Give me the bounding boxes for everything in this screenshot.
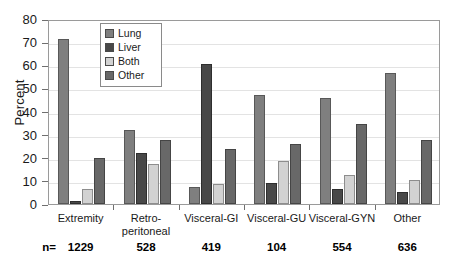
x-axis-label-line: Other bbox=[367, 212, 448, 225]
bar-other-5 bbox=[421, 140, 432, 204]
n-value: 636 bbox=[375, 241, 440, 253]
y-axis-tick-label: 10 bbox=[0, 175, 37, 188]
bar-both-2 bbox=[213, 184, 224, 204]
legend-label-both: Both bbox=[118, 56, 140, 67]
bar-lung-5 bbox=[385, 73, 396, 204]
n-value: 1229 bbox=[48, 241, 113, 253]
legend-item-other: Other bbox=[105, 69, 157, 82]
legend-swatch-liver-icon bbox=[105, 43, 114, 52]
n-value: 528 bbox=[113, 241, 178, 253]
bar-both-4 bbox=[344, 175, 355, 204]
gridline bbox=[49, 160, 439, 161]
n-value: 104 bbox=[244, 241, 309, 253]
x-axis-tick bbox=[309, 205, 310, 210]
y-axis-tick-label: 40 bbox=[0, 106, 37, 119]
y-axis-tick-label: 80 bbox=[0, 13, 37, 26]
bar-both-0 bbox=[82, 189, 93, 204]
bar-both-1 bbox=[148, 164, 159, 204]
legend-label-other: Other bbox=[118, 70, 144, 81]
chart-legend: Lung Liver Both Other bbox=[100, 23, 162, 87]
y-axis-tick-label: 50 bbox=[0, 82, 37, 95]
gridline bbox=[49, 137, 439, 138]
x-axis-tick bbox=[179, 205, 180, 210]
legend-swatch-both-icon bbox=[105, 57, 114, 66]
y-axis-tick-label: 60 bbox=[0, 59, 37, 72]
bar-other-1 bbox=[160, 140, 171, 204]
bar-lung-3 bbox=[254, 95, 265, 204]
x-axis-tick bbox=[113, 205, 114, 210]
bar-other-4 bbox=[356, 124, 367, 204]
legend-swatch-lung-icon bbox=[105, 29, 114, 38]
bar-lung-1 bbox=[124, 130, 135, 204]
bar-liver-0 bbox=[70, 201, 81, 204]
gridline bbox=[49, 183, 439, 184]
n-value: 419 bbox=[179, 241, 244, 253]
legend-swatch-other-icon bbox=[105, 71, 114, 80]
n-value: 554 bbox=[309, 241, 374, 253]
bar-liver-3 bbox=[266, 183, 277, 204]
bar-lung-0 bbox=[58, 39, 69, 204]
y-axis-tick-label: 20 bbox=[0, 152, 37, 165]
legend-item-both: Both bbox=[105, 55, 157, 68]
gridline bbox=[49, 114, 439, 115]
bar-liver-1 bbox=[136, 153, 147, 204]
bar-liver-4 bbox=[332, 189, 343, 204]
chart-figure: Percent 01020304050607080 ExtremityRetro… bbox=[0, 0, 455, 265]
bar-liver-2 bbox=[201, 64, 212, 204]
x-axis-label-line: peritoneal bbox=[105, 225, 186, 238]
y-axis-tick-label: 30 bbox=[0, 129, 37, 142]
y-axis-tick-label: 0 bbox=[0, 198, 37, 211]
bar-other-3 bbox=[290, 144, 301, 204]
gridline bbox=[49, 90, 439, 91]
legend-label-liver: Liver bbox=[118, 42, 141, 53]
bar-other-0 bbox=[94, 158, 105, 204]
x-axis-label: Other bbox=[367, 212, 448, 225]
legend-label-lung: Lung bbox=[118, 28, 141, 39]
x-axis-tick bbox=[244, 205, 245, 210]
bar-lung-4 bbox=[320, 98, 331, 204]
bar-other-2 bbox=[225, 149, 236, 205]
bar-liver-5 bbox=[397, 192, 408, 204]
bar-both-5 bbox=[409, 180, 420, 204]
bar-lung-2 bbox=[189, 187, 200, 204]
x-axis-tick bbox=[375, 205, 376, 210]
bar-both-3 bbox=[278, 161, 289, 204]
legend-item-lung: Lung bbox=[105, 27, 157, 40]
y-axis-tick-label: 70 bbox=[0, 36, 37, 49]
legend-item-liver: Liver bbox=[105, 41, 157, 54]
